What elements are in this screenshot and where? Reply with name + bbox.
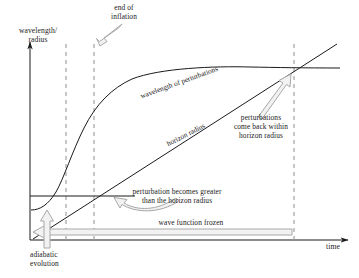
perturbation-greater-label: perturbation becomes greater than the ho… [110, 187, 244, 205]
inflation-diagram: wavelength/ radius time end of inflation… [0, 0, 359, 278]
y-axis-label: wavelength/ radius [2, 26, 74, 44]
perturbations-reenter-label: perturbations come back within horizon r… [222, 113, 300, 141]
end-of-inflation-label: end of inflation [96, 3, 152, 21]
end-of-inflation-callout-arrow [97, 24, 123, 46]
wave-function-frozen-arrow [33, 226, 292, 239]
x-axis-label: time [326, 242, 354, 251]
adiabatic-evolution-label: adiabatic evolution [30, 250, 82, 268]
wave-function-frozen-label: wave function frozen [143, 218, 239, 227]
